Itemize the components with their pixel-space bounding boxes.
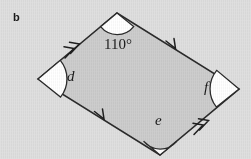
geometry-figure: b 110° d e f [0, 0, 251, 159]
parallelogram-shape [38, 13, 239, 155]
angle-label-e: e [155, 113, 162, 128]
angle-arc-left [38, 60, 67, 97]
parallelogram-diagram [0, 0, 251, 159]
angle-label-top: 110° [104, 37, 132, 52]
angle-label-d: d [67, 69, 75, 84]
angle-arc-top [101, 13, 134, 35]
part-label-b: b [13, 12, 20, 23]
angle-label-f: f [204, 80, 208, 95]
